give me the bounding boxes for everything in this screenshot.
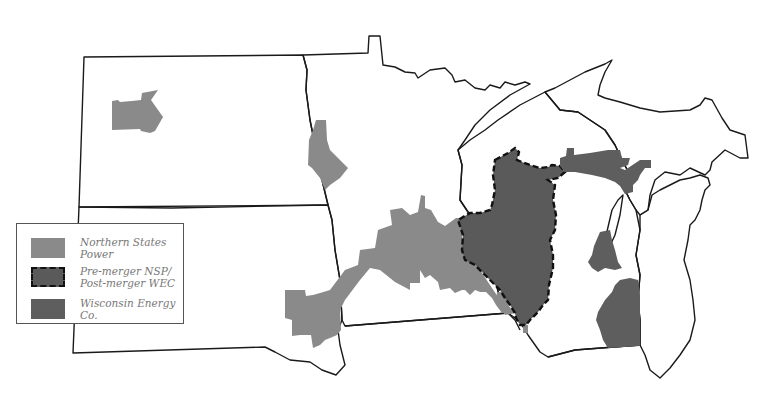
north-dakota-outline: [79, 55, 328, 208]
legend-swatch-wec: [31, 299, 65, 319]
pre-merger-nsp-post-merger-wec-territory: [458, 148, 565, 325]
nsp-territory-nd-west: [112, 90, 163, 133]
legend: Northern States Power Pre-merger NSP/ Po…: [16, 223, 184, 324]
wisconsin-energy-central-territory: [588, 230, 622, 272]
legend-swatch-pre-merger: [31, 267, 65, 287]
service-territory-map: [0, 0, 768, 403]
legend-label: Northern States Power: [80, 236, 183, 260]
nsp-territory-red-river: [308, 120, 348, 190]
legend-item-wisconsin-energy: Wisconsin Energy Co.: [31, 297, 183, 321]
iowa-border: [345, 313, 520, 330]
michigan-upper-peninsula-outline: [545, 60, 748, 215]
wisconsin-energy-up-territory: [560, 148, 651, 194]
legend-label: Wisconsin Energy Co.: [80, 297, 183, 321]
legend-item-pre-merger: Pre-merger NSP/ Post-merger WEC: [31, 265, 175, 289]
legend-swatch-nsp: [31, 238, 65, 258]
legend-item-northern-states-power: Northern States Power: [31, 236, 183, 260]
wisconsin-energy-se-territory: [596, 278, 640, 348]
legend-label: Pre-merger NSP/ Post-merger WEC: [80, 265, 175, 289]
michigan-lower-peninsula-outline: [636, 175, 710, 378]
